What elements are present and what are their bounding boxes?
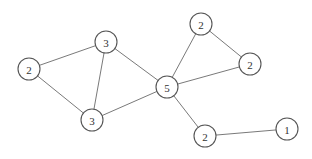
graph-node: 2 [190, 13, 212, 35]
node-label: 2 [247, 59, 253, 71]
graph-edge [29, 42, 106, 69]
node-label: 2 [198, 19, 204, 31]
node-label: 5 [164, 82, 170, 94]
node-label: 3 [89, 115, 95, 127]
graph-edge [92, 87, 167, 120]
graph-edge [92, 42, 106, 120]
node-label: 2 [26, 64, 32, 76]
graph-edge [29, 69, 92, 120]
graph-node: 3 [81, 109, 103, 131]
graph-edge [205, 129, 287, 136]
graph-diagram: 23352221 [0, 0, 312, 159]
nodes-layer: 23352221 [18, 13, 298, 147]
node-label: 3 [103, 37, 109, 49]
graph-node: 5 [156, 76, 178, 98]
graph-node: 2 [18, 58, 40, 80]
graph-node: 1 [276, 118, 298, 140]
graph-node: 2 [194, 125, 216, 147]
graph-node: 2 [239, 53, 261, 75]
node-label: 1 [284, 124, 290, 136]
graph-edge [167, 64, 250, 87]
node-label: 2 [202, 131, 208, 143]
graph-node: 3 [95, 31, 117, 53]
